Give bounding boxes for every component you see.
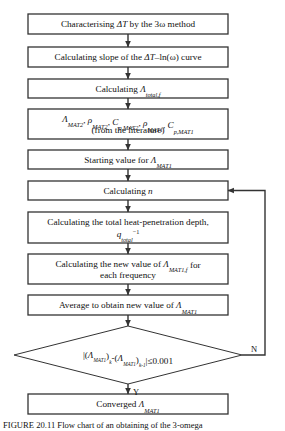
node-label-n2: Calculating slope of the ΔT–ln(ω) curve (55, 52, 202, 62)
feedback-loop-connector (228, 191, 265, 356)
node-label-n6: Calculating n (103, 186, 153, 196)
node-label-n1: Characterising ΔT by the 3ω method (61, 19, 196, 29)
edge-label-yes: Y (133, 387, 139, 397)
decision-node-n10 (14, 326, 242, 384)
edge-label-no: N (251, 344, 257, 354)
figure-caption: FIGURE 20.11 Flow chart of an obtaining … (0, 420, 285, 431)
flowchart-diagram: Characterising ΔT by the 3ω methodCalcul… (0, 0, 285, 431)
